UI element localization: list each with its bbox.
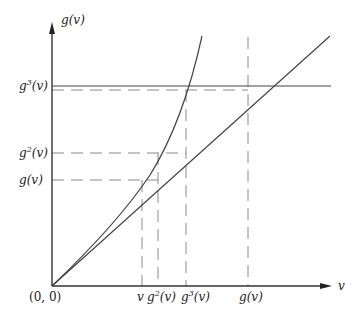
x-axis-arrow-icon — [320, 283, 332, 289]
y-axis-arrow-icon — [49, 22, 55, 34]
x-tick-v: v — [137, 290, 144, 304]
origin-label: (0, 0) — [29, 290, 61, 304]
x-tick-g1: g(v) — [239, 290, 263, 304]
x-axis-label: v — [338, 279, 345, 293]
x-tick-g3: g3(v) — [181, 289, 210, 304]
identity-line — [52, 36, 330, 286]
x-tick-g2: g2(v) — [147, 289, 176, 304]
y-tick-g3: g3(v) — [19, 78, 48, 93]
y-tick-g1: g(v) — [19, 173, 43, 187]
diagram-canvas: g(v) v (0, 0) g3(v) g2(v) g(v) v g2(v) g… — [0, 0, 362, 317]
dashed-guides — [52, 37, 248, 286]
y-axis-label: g(v) — [61, 13, 85, 27]
g-curve — [52, 36, 202, 286]
y-tick-g2: g2(v) — [19, 145, 48, 160]
